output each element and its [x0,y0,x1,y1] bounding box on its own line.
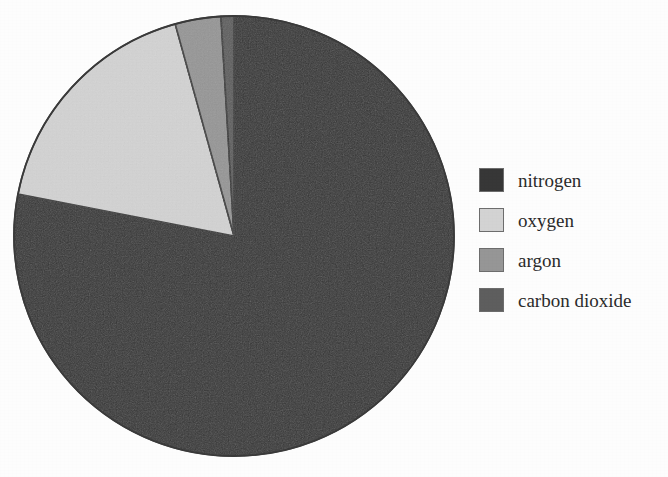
legend-item-oxygen[interactable]: oxygen [479,200,665,240]
legend-swatch-argon [479,248,504,272]
legend-item-carbon-dioxide[interactable]: carbon dioxide [479,280,665,320]
legend-label-argon: argon [518,251,561,270]
chart-legend: nitrogen oxygen argon carbon dioxide [479,160,665,320]
legend-item-nitrogen[interactable]: nitrogen [479,160,665,200]
legend-label-carbon-dioxide: carbon dioxide [518,291,631,310]
legend-label-oxygen: oxygen [518,211,574,230]
legend-swatch-nitrogen [479,168,504,192]
legend-label-nitrogen: nitrogen [518,171,581,190]
pie-chart-area [0,0,470,477]
pie-chart-svg [0,0,470,477]
legend-item-argon[interactable]: argon [479,240,665,280]
legend-swatch-oxygen [479,208,504,232]
legend-swatch-carbon-dioxide [479,288,504,312]
